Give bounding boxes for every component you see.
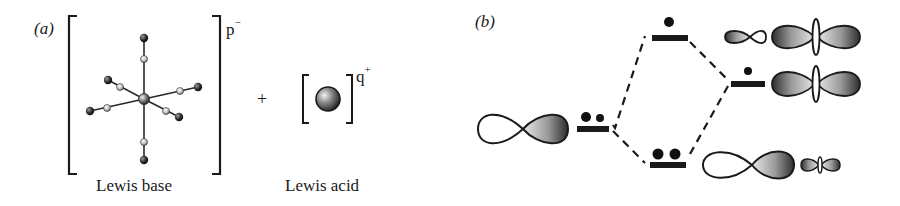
antibonding-mo-icon xyxy=(725,19,860,55)
plus-sign: + xyxy=(257,89,267,110)
antibonding-level-bar xyxy=(652,35,688,41)
correlation-lines xyxy=(613,36,728,163)
lewis-acid-caption: Lewis acid xyxy=(285,176,359,196)
lewis-base-caption: Lewis base xyxy=(96,176,172,196)
lewis-base-charge: p− xyxy=(226,18,241,40)
panel-b-label: (b) xyxy=(475,12,495,32)
bonding-mo-icon xyxy=(703,152,794,179)
lewis-acid-atom-icon xyxy=(316,87,340,111)
lewis-base-level-bar xyxy=(577,126,609,132)
lewis-acid-orbital-icon xyxy=(772,66,860,102)
lewis-acid-charge-sign: + xyxy=(365,63,371,75)
lewis-base-orbital-icon xyxy=(478,115,568,144)
lewis-acid-bracket-right xyxy=(346,75,352,123)
bonding-mo-metal-orbital-icon xyxy=(801,157,840,173)
bonding-level-bar xyxy=(650,162,686,168)
lewis-acid-charge-letter: q xyxy=(356,67,365,86)
lewis-acid-level-bar xyxy=(731,81,765,87)
lewis-base-charge-sign: − xyxy=(235,16,241,28)
lewis-base-charge-letter: p xyxy=(226,20,235,39)
lewis-base-bracket-right xyxy=(212,16,220,174)
lewis-acid-bracket-left xyxy=(303,75,309,123)
octahedral-complex-icon xyxy=(86,34,202,164)
lewis-acid-charge: q+ xyxy=(356,65,371,87)
panel-a-label: (a) xyxy=(34,19,54,39)
lewis-base-bracket-left xyxy=(69,16,77,174)
